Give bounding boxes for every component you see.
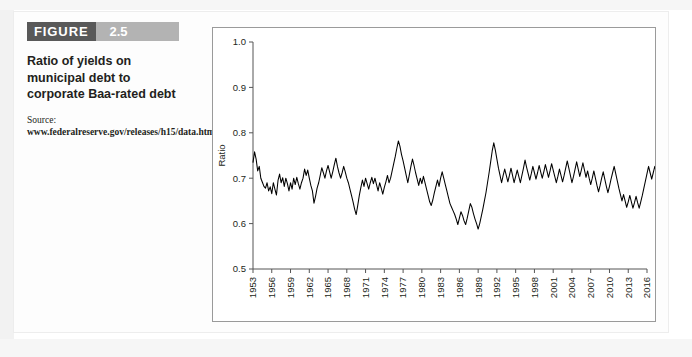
figure-tag: FIGURE 2.5 — [27, 22, 179, 41]
ratio-line-chart: 0.50.60.70.80.91.0Ratio19531956195919621… — [213, 28, 655, 321]
chart-panel: 0.50.60.70.80.91.0Ratio19531956195919621… — [212, 27, 656, 322]
x-tick-label: 1962 — [304, 277, 315, 298]
x-tick-label: 1983 — [435, 277, 446, 298]
x-tick-label: 2013 — [623, 277, 634, 298]
page-shade-left — [0, 0, 14, 357]
y-tick-label: 0.9 — [233, 82, 246, 93]
y-tick-label: 0.7 — [233, 173, 246, 184]
x-tick-label: 2004 — [566, 277, 577, 298]
y-tick-label: 1.0 — [233, 36, 246, 47]
figure-source-url: www.federalreserve.gov/releases/h15/data… — [27, 127, 217, 137]
x-tick-label: 1953 — [247, 277, 258, 298]
x-tick-label: 1995 — [510, 277, 521, 298]
page-shade-bottom — [0, 339, 692, 357]
figure-page: FIGURE 2.5 Ratio of yields on municipal … — [0, 0, 692, 357]
x-tick-label: 1968 — [341, 277, 352, 298]
x-tick-label: 2007 — [585, 277, 596, 298]
y-axis-title: Ratio — [216, 144, 227, 166]
x-tick-label: 2001 — [548, 277, 559, 298]
x-tick-label: 1974 — [379, 277, 390, 298]
figure-card: FIGURE 2.5 Ratio of yields on municipal … — [14, 12, 668, 332]
x-tick-label: 2016 — [641, 277, 652, 298]
x-tick-label: 1989 — [473, 277, 484, 298]
y-tick-label: 0.5 — [233, 263, 246, 274]
x-tick-label: 1992 — [491, 277, 502, 298]
x-tick-label: 1965 — [322, 277, 333, 298]
x-tick-label: 1959 — [285, 277, 296, 298]
figure-caption-column: FIGURE 2.5 Ratio of yields on municipal … — [27, 22, 195, 138]
y-tick-label: 0.8 — [233, 127, 246, 138]
figure-caption-text: Ratio of yields on municipal debt to cor… — [27, 53, 179, 103]
chart-series-line — [253, 79, 655, 237]
x-tick-label: 1986 — [454, 277, 465, 298]
page-shade-top — [0, 0, 692, 10]
x-tick-label: 1980 — [416, 277, 427, 298]
x-tick-label: 1971 — [360, 277, 371, 298]
x-tick-label: 1998 — [529, 277, 540, 298]
x-tick-label: 1977 — [397, 277, 408, 298]
x-tick-label: 1956 — [266, 277, 277, 298]
y-tick-label: 0.6 — [233, 218, 246, 229]
x-tick-label: 2010 — [604, 277, 615, 298]
figure-tag-word: FIGURE — [27, 22, 96, 41]
figure-tag-number: 2.5 — [96, 22, 179, 41]
figure-source-label: Source: — [27, 115, 56, 125]
figure-source: Source: www.federalreserve.gov/releases/… — [27, 114, 183, 138]
